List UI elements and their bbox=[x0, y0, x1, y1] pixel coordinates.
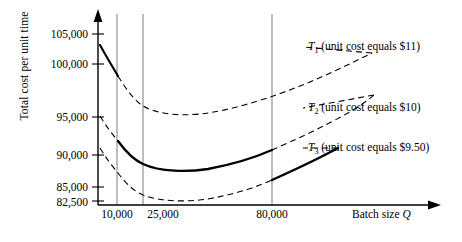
x-axis-label-text: Batch size bbox=[352, 208, 402, 220]
y-tick-label-95000: 95,000 bbox=[32, 111, 88, 123]
label-leader-lines bbox=[303, 47, 374, 148]
x-axis-label-variable: Q bbox=[402, 208, 410, 220]
x-tick-label-80000: 80,000 bbox=[242, 208, 302, 220]
y-tick-label-82500: 82,500 bbox=[32, 196, 88, 208]
curve-label-t2-subscript: 2 bbox=[314, 107, 318, 116]
x-tick-label-25000: 25,000 bbox=[133, 208, 193, 220]
curve-label-t2-text: (unit cost equals $10) bbox=[321, 101, 420, 113]
curve-t1-solid bbox=[100, 45, 118, 76]
y-tick-label-100000: 100,000 bbox=[32, 58, 88, 70]
curve-label-t1-subscript: 1 bbox=[314, 46, 318, 55]
curve-label-t3-subscript: 3 bbox=[314, 147, 318, 156]
curve-label-t1: T1 (unit cost equals $11) bbox=[308, 40, 420, 55]
x-axis-label: Batch size Q bbox=[352, 208, 411, 220]
vertical-gridlines bbox=[117, 14, 272, 205]
y-tick-label-105000: 105,000 bbox=[32, 28, 88, 40]
curve-label-t1-text: (unit cost equals $11) bbox=[321, 40, 420, 52]
chart-figure: Total cost per unit time 105,000 100,000… bbox=[0, 0, 462, 242]
curve-t2-dashed-head bbox=[100, 116, 118, 141]
curve-t3 bbox=[100, 148, 338, 201]
y-axis bbox=[94, 9, 103, 205]
curve-t3-dashed bbox=[100, 148, 272, 201]
y-tick-label-85000: 85,000 bbox=[32, 181, 88, 193]
curve-label-t3-text: (unit cost equals $9.50) bbox=[321, 141, 429, 153]
curve-label-t2: T2 (unit cost equals $10) bbox=[308, 101, 421, 116]
curve-t2-solid bbox=[118, 141, 272, 171]
y-axis-label: Total cost per unit time bbox=[18, 0, 30, 156]
y-tick-label-90000: 90,000 bbox=[32, 149, 88, 161]
curve-label-t3: T3 (unit cost equals $9.50) bbox=[308, 141, 429, 156]
